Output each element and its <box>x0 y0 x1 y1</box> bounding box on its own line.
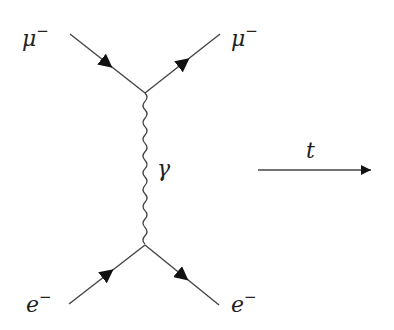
label-photon: γ <box>157 158 170 180</box>
label-electron-bottom-right: e− <box>231 292 257 316</box>
label-time: t <box>306 140 315 162</box>
label-electron-bottom-left: e− <box>26 292 52 316</box>
fermion-line-muon-in <box>70 34 145 93</box>
fermion-line-electron-out <box>145 245 219 305</box>
feynman-diagram <box>0 0 394 330</box>
fermion-line-electron-in <box>69 245 145 304</box>
label-muon-top-right: μ− <box>231 26 258 50</box>
fermion-line-muon-out <box>145 34 220 93</box>
photon-propagator <box>143 93 147 244</box>
label-muon-top-left: μ− <box>22 26 49 50</box>
